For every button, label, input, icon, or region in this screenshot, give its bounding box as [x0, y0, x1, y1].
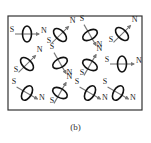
- north-pole-label: N: [130, 93, 136, 102]
- dipole-arrow-icon: [17, 87, 38, 99]
- north-pole-label: N: [136, 56, 142, 65]
- south-pole-label: S: [50, 42, 54, 51]
- south-pole-label: S: [80, 14, 84, 23]
- dipole: SN: [50, 72, 73, 105]
- dipole: SN: [109, 15, 138, 44]
- dipole: SN: [14, 45, 43, 74]
- dipole: SN: [47, 16, 76, 45]
- dipole-arrow-icon: [54, 83, 66, 104]
- north-pole-label: N: [132, 15, 138, 24]
- south-pole-label: S: [80, 68, 84, 77]
- south-pole-label: S: [103, 77, 107, 86]
- north-pole-label: N: [102, 93, 108, 102]
- south-pole-label: S: [50, 96, 54, 105]
- dipole: SN: [10, 25, 47, 42]
- south-pole-label: S: [109, 35, 113, 44]
- dipole-arrow-icon: [80, 87, 101, 99]
- dipole: SN: [105, 55, 142, 72]
- south-pole-label: S: [14, 65, 18, 74]
- north-pole-label: N: [67, 72, 73, 81]
- north-pole-label: N: [39, 93, 45, 102]
- south-pole-label: S: [10, 25, 14, 34]
- dipole-arrow-icon: [84, 25, 96, 46]
- figure-caption: (b): [0, 122, 151, 132]
- dipole: SN: [12, 77, 45, 102]
- north-pole-label: N: [41, 26, 47, 35]
- dipole-arrow-icon: [54, 53, 66, 74]
- dipole: SN: [80, 44, 103, 77]
- south-pole-label: S: [12, 77, 16, 86]
- north-pole-label: N: [70, 16, 76, 25]
- dipole-arrow-icon: [108, 87, 129, 99]
- dipole-arrow-icon: [84, 55, 96, 76]
- south-pole-label: S: [105, 55, 109, 64]
- dipole-grid: SNSNSNSNSNSNSNSNSNSNSNSN: [10, 14, 142, 105]
- north-pole-label: N: [37, 45, 43, 54]
- north-pole-label: N: [97, 44, 103, 53]
- south-pole-label: S: [75, 77, 79, 86]
